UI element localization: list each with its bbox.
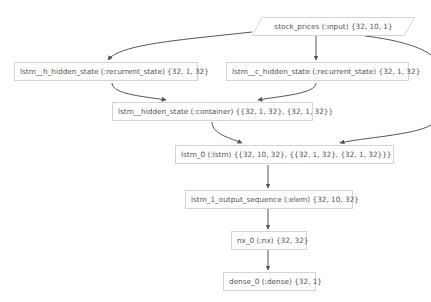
node-nx-0[interactable]: nx_0 (:nx) {32, 32}: [231, 231, 307, 250]
node-lstm-h-hidden-state[interactable]: lstm__h_hidden_state (:recurrent_state) …: [14, 62, 198, 81]
node-label: lstm__hidden_state (:container) {{32, 1,…: [118, 107, 333, 116]
edge-stock-to-lstm0: [365, 36, 431, 55]
node-label: lstm__h_hidden_state (:recurrent_state) …: [20, 67, 209, 76]
edge-c-state-to-container: [258, 83, 316, 100]
node-lstm-hidden-state-container[interactable]: lstm__hidden_state (:container) {{32, 1,…: [112, 102, 313, 121]
edge-h-state-to-container: [112, 83, 166, 100]
edge-container-to-lstm0: [212, 122, 242, 143]
node-lstm-0[interactable]: lstm_0 (:lstm) {{32, 10, 32}, {{32, 1, 3…: [175, 145, 394, 164]
node-label: dense_0 (:dense) {32, 1}: [229, 277, 322, 286]
node-label: lstm_1_output_sequence (:elem) {32, 10, …: [191, 195, 359, 204]
node-stock-prices[interactable]: stock_prices (:input) {32, 10, 1}: [252, 17, 415, 36]
node-label: stock_prices (:input) {32, 10, 1}: [252, 17, 415, 36]
edge-stock-to-lstm0-return: [340, 125, 431, 143]
node-label: nx_0 (:nx) {32, 32}: [237, 236, 308, 245]
node-lstm-c-hidden-state[interactable]: lstm__c_hidden_state (:recurrent_state) …: [226, 62, 409, 81]
edge-stock-to-h-state: [108, 32, 252, 60]
node-lstm-1-output-sequence[interactable]: lstm_1_output_sequence (:elem) {32, 10, …: [185, 190, 353, 209]
node-dense-0[interactable]: dense_0 (:dense) {32, 1}: [223, 272, 316, 291]
node-label: lstm_0 (:lstm) {{32, 10, 32}, {{32, 1, 3…: [181, 150, 392, 159]
node-label: lstm__c_hidden_state (:recurrent_state) …: [232, 67, 420, 76]
